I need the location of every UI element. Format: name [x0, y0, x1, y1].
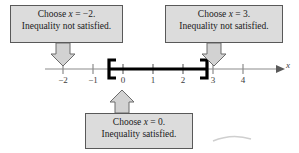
callout-left-line2: Inequality not satisfied.	[14, 20, 119, 32]
arrow-left-callout	[51, 43, 75, 66]
callout-box-left: Choose x = −2. Inequality not satisfied.	[10, 5, 123, 43]
arrow-right-callout	[202, 43, 226, 66]
callout-box-bottom: Choose x = 0. Inequality satisfied.	[85, 113, 193, 149]
callout-bottom-line2: Inequality satisfied.	[89, 128, 189, 140]
callout-right-line1: Choose x = 3.	[169, 8, 279, 20]
callout-bottom-line1: Choose x = 0.	[89, 116, 189, 128]
callout-left-line1: Choose x = −2.	[14, 8, 119, 20]
callout-box-right: Choose x = 3. Inequality not satisfied.	[165, 5, 283, 43]
arrow-bottom-callout	[110, 90, 134, 113]
callout-right-line2: Inequality not satisfied.	[169, 20, 279, 32]
number-line-figure: −2 −1 0 1 2 3 4 x Choose x = −2. Inequal…	[0, 0, 299, 153]
